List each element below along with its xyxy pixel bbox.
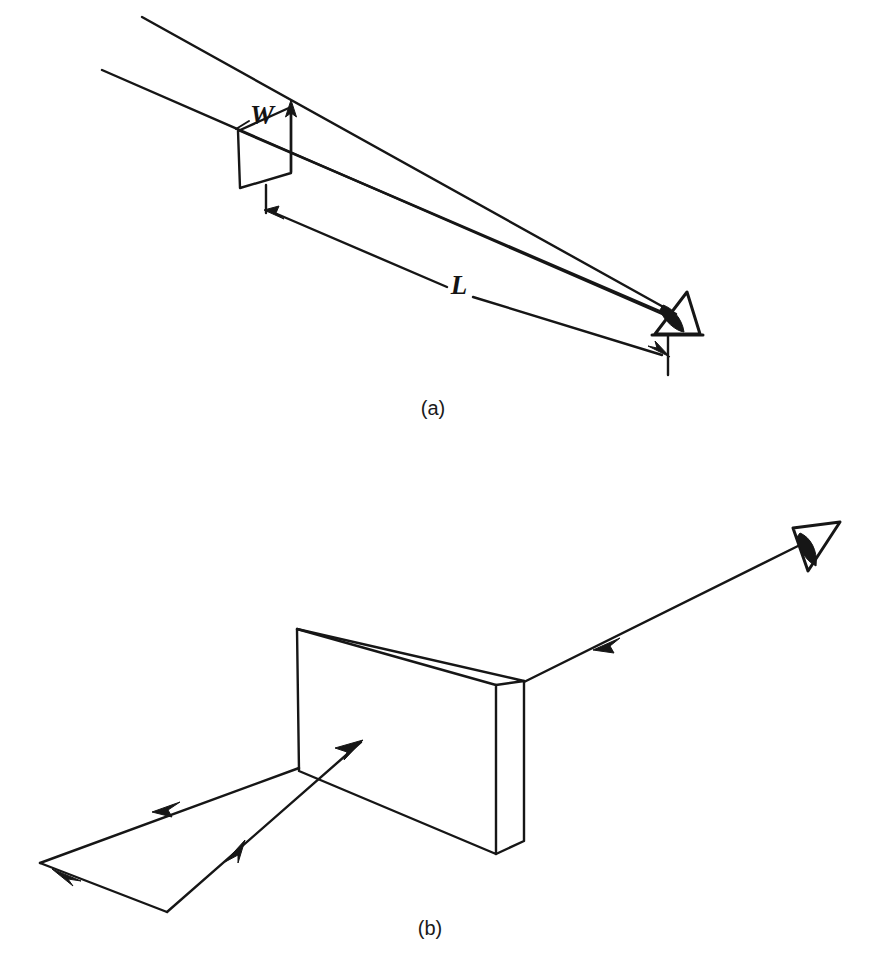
caption-panel-a: (a): [421, 397, 445, 419]
incident-ray-path: [40, 740, 363, 912]
ray-to-eye: [524, 545, 800, 682]
width-label: W: [250, 100, 276, 130]
ray-leg-bottom: [40, 863, 167, 912]
slab-top-face: [297, 629, 524, 685]
ray-leg-incoming: [167, 742, 361, 912]
eye-pupil: [660, 305, 684, 332]
width-dimension: [286, 100, 297, 172]
figure-root: W L: [0, 0, 874, 953]
slab-front-face: [297, 629, 496, 854]
panel-b: (b): [40, 522, 840, 939]
rectangular-slab: [297, 629, 524, 854]
panel-a: W L: [102, 17, 703, 419]
length-line-left: [277, 214, 447, 287]
ray-leg-incoming-arrow: [225, 840, 245, 863]
length-label: L: [450, 270, 468, 300]
ray-leg-outgoing-arrow: [152, 802, 180, 817]
caption-panel-b: (b): [418, 917, 442, 939]
diagram-canvas: W L: [0, 0, 874, 953]
ray-impact-arrow: [335, 740, 363, 760]
length-line-right: [473, 297, 662, 355]
eye-icon-panel-b: [793, 522, 840, 571]
slab-right-face: [496, 681, 524, 854]
